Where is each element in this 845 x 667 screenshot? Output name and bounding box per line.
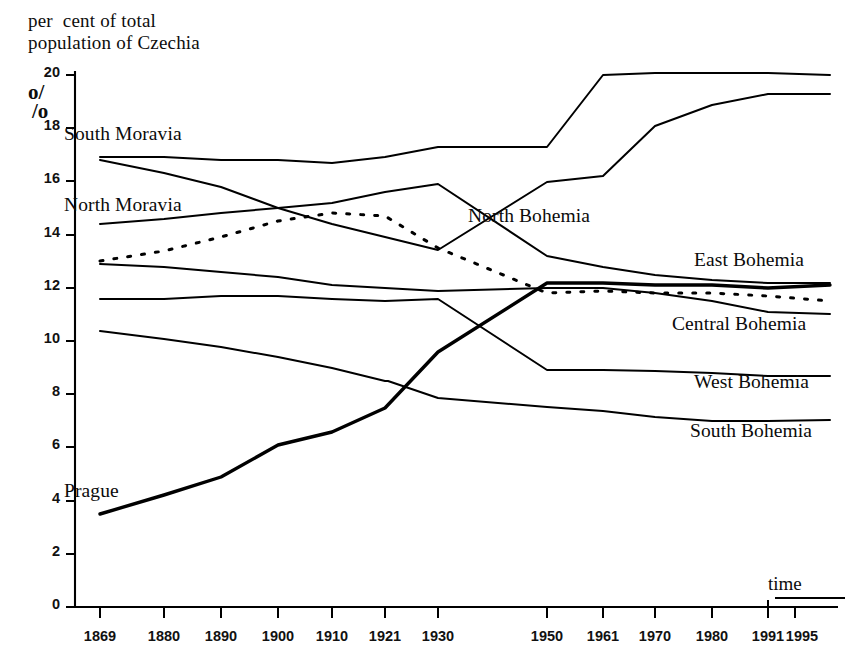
x-tick-label-1921: 1921 [369,628,401,644]
series-label-prague: Prague [64,480,119,502]
series-label-central-bohemia: Central Bohemia [672,313,806,335]
series-lines [100,73,830,514]
y-tick-label-14: 14 [26,224,60,240]
y-tick-marks [66,75,75,607]
y-tick-label-6: 6 [26,436,60,452]
x-tick-label-1950: 1950 [531,628,563,644]
x-tick-marks [100,600,795,618]
y-tick-label-0: 0 [26,596,60,612]
y-tick-label-2: 2 [26,543,60,559]
series-line-south-moravia [100,73,830,163]
y-tick-label-18: 18 [26,117,60,133]
x-axis-label-time: time [768,573,802,595]
x-tick-label-1869: 1869 [84,628,116,644]
x-tick-label-1890: 1890 [205,628,237,644]
x-tick-label-1961: 1961 [587,628,619,644]
x-tick-label-1880: 1880 [148,628,180,644]
series-line-central-bohemia [100,264,830,314]
y-tick-label-4: 4 [26,490,60,506]
y-tick-label-20: 20 [26,64,60,80]
series-label-east-bohemia: East Bohemia [694,249,845,271]
series-line-north-moravia [100,94,830,250]
x-tick-label-1900: 1900 [262,628,294,644]
y-tick-label-10: 10 [26,330,60,346]
x-tick-label-1991: 1991 [752,628,784,644]
y-tick-label-16: 16 [26,170,60,186]
chart-root: per cent of total population of Czechia … [0,0,845,667]
x-tick-label-1970: 1970 [639,628,671,644]
x-tick-label-1995: 1995 [786,628,818,644]
series-label-west-bohemia: West Bohemia [694,371,809,393]
series-label-south-moravia: South Moravia [64,123,182,145]
x-tick-label-1930: 1930 [422,628,454,644]
y-tick-label-8: 8 [26,383,60,399]
series-label-south-bohemia: South Bohemia [690,420,812,442]
x-tick-label-1980: 1980 [696,628,728,644]
series-label-north-moravia: North Moravia [64,194,182,216]
x-tick-label-1910: 1910 [316,628,348,644]
series-label-north-bohemia: North Bohemia [468,205,590,227]
y-tick-label-12: 12 [26,277,60,293]
